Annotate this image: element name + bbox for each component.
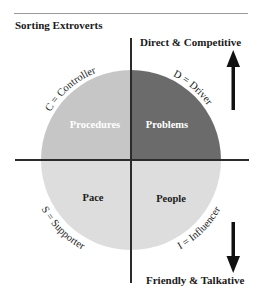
quadrant-bottom-left (41, 160, 131, 250)
quadrant-bottom-right (131, 160, 221, 250)
pole-label-bottom: Friendly & Talkative (146, 274, 245, 286)
quadrant-label-problems: Problems (146, 119, 188, 130)
quadrant-label-procedures: Procedures (70, 119, 120, 130)
quadrant-top-right (131, 70, 221, 160)
quadrant-label-pace: Pace (83, 192, 104, 203)
arrow-up-icon (227, 50, 241, 110)
quadrant-label-people: People (156, 193, 186, 204)
pole-label-top: Direct & Competitive (140, 36, 241, 48)
arrow-down-icon (227, 222, 241, 273)
disc-quadrant-diagram: Sorting Extroverts Procedures Problems P… (0, 0, 262, 304)
quadrant-top-left (41, 70, 131, 160)
figure-title: Sorting Extroverts (15, 19, 103, 31)
